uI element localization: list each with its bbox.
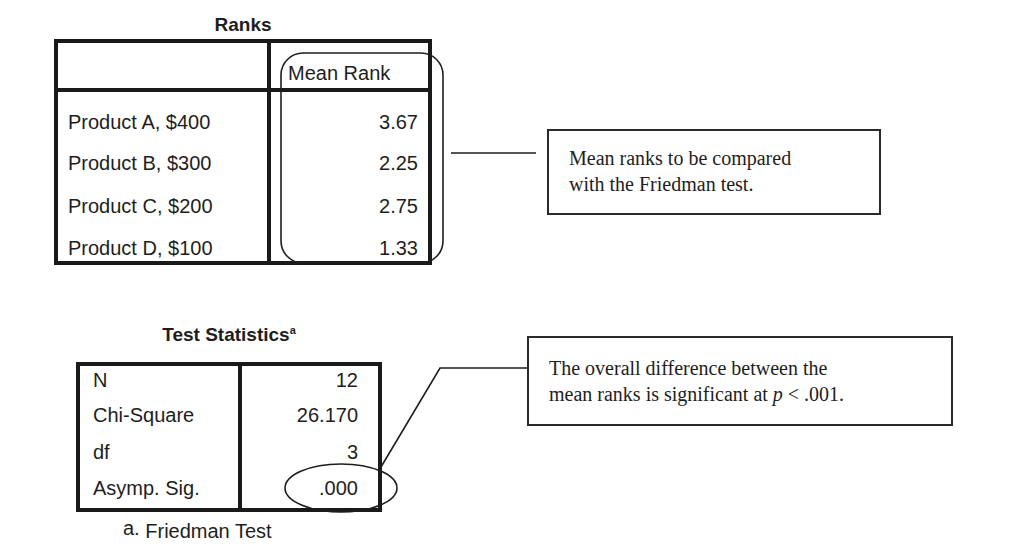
p-symbol: p [773, 383, 783, 405]
ranks-title: Ranks [54, 14, 432, 36]
ranks-header-divider [54, 88, 432, 92]
stat-row-value: .000 [260, 478, 358, 498]
stat-row-value: 12 [260, 370, 358, 390]
ranks-row-label: Product D, $100 [68, 238, 213, 258]
stat-row-label: N [93, 370, 107, 390]
ranks-row-label: Product B, $300 [68, 153, 211, 173]
significance-callout-line2: mean ranks is significant at p < .001. [549, 381, 951, 407]
significance-callout: The overall difference between the mean … [527, 336, 953, 426]
ranks-row-label: Product A, $400 [68, 112, 210, 132]
ranks-row-value: 1.33 [330, 238, 418, 258]
ranks-callout-line1: Mean ranks to be compared [569, 145, 879, 171]
test-statistics-title: Test Statisticsa [76, 324, 382, 346]
footnote-superscript: a [290, 324, 296, 336]
ranks-row-value: 2.25 [330, 153, 418, 173]
test-statistics-title-text: Test Statistics [162, 324, 289, 345]
stat-row-value: 3 [260, 442, 358, 462]
ranks-row-value: 2.75 [330, 196, 418, 216]
ranks-callout-line2: with the Friedman test. [569, 171, 879, 197]
callout-text: mean ranks is significant at [549, 383, 773, 405]
stat-row-label: Chi-Square [93, 405, 194, 425]
footnote-text: Friedman Test [145, 520, 271, 542]
stat-row-value: 26.170 [260, 405, 358, 425]
stat-row-label: Asymp. Sig. [93, 478, 200, 498]
ranks-row-value: 3.67 [330, 112, 418, 132]
ranks-column-divider [267, 39, 271, 265]
ranks-callout: Mean ranks to be compared with the Fried… [547, 129, 881, 215]
stat-row-label: df [93, 442, 110, 462]
footnote-marker: a. [123, 517, 140, 539]
ranks-column-header: Mean Rank [288, 63, 390, 83]
significance-leader-line [381, 368, 527, 467]
ranks-row-label: Product C, $200 [68, 196, 213, 216]
significance-callout-line1: The overall difference between the [549, 355, 951, 381]
footnote: a. Friedman Test [123, 520, 272, 543]
test-statistics-column-divider [238, 362, 242, 512]
callout-text: < .001. [783, 383, 844, 405]
